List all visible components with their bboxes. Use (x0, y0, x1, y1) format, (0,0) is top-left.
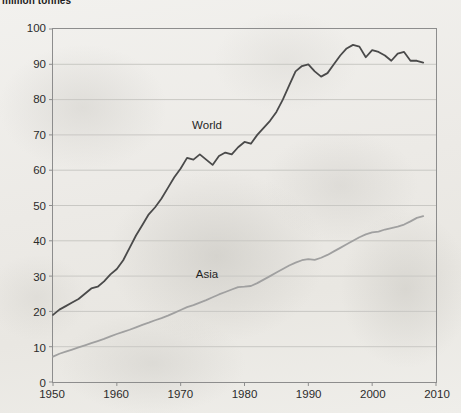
x-axis-tick-label: 1970 (168, 388, 194, 400)
y-axis-tick-label: 60 (2, 164, 46, 176)
y-axis-tick-label: 100 (2, 22, 46, 34)
series-label-world: World (192, 119, 222, 131)
y-axis-tick-label: 90 (2, 58, 46, 70)
chart-title: million tonnes (2, 0, 71, 6)
series-label-asia: Asia (196, 268, 218, 280)
y-axis-labels: 0102030405060708090100 (0, 28, 46, 383)
x-axis-tick-label: 1980 (232, 388, 258, 400)
chart-figure: million tonnes 0102030405060708090100 Wo… (0, 0, 461, 413)
y-axis-tick-label: 70 (2, 129, 46, 141)
y-axis-tick-label: 20 (2, 306, 46, 318)
x-axis-tick-label: 2000 (360, 388, 386, 400)
x-axis-labels: 1950196019701980199020002010 (52, 388, 437, 408)
x-axis-tick-label: 1990 (296, 388, 322, 400)
y-axis-tick-label: 80 (2, 93, 46, 105)
y-axis-tick-label: 10 (2, 342, 46, 354)
plot-area: WorldAsia (52, 28, 437, 383)
y-axis-tick-label: 50 (2, 200, 46, 212)
x-axis-tick-label: 2010 (424, 388, 450, 400)
series-annotations: WorldAsia (53, 29, 436, 382)
x-axis-tick-label: 1950 (39, 388, 65, 400)
y-axis-tick-label: 30 (2, 271, 46, 283)
y-axis-tick-label: 40 (2, 235, 46, 247)
x-axis-tick-label: 1960 (103, 388, 129, 400)
